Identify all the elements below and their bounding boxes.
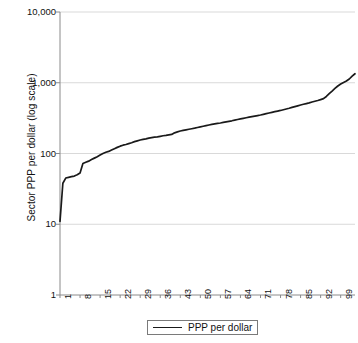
x-axis-tick-label: 29 [144, 289, 153, 299]
x-axis-tick-label: 64 [244, 289, 253, 299]
x-axis-tick-label: 1 [64, 294, 73, 299]
x-axis-tick-label: 57 [224, 289, 233, 299]
x-axis-tick-labels: 1815222936435057647178859299 [0, 0, 358, 343]
x-axis-tick-label: 36 [164, 289, 173, 299]
x-axis-tick-label: 92 [325, 289, 334, 299]
x-axis-tick-label: 43 [184, 289, 193, 299]
x-axis-tick-label: 22 [124, 289, 133, 299]
legend-label-ppp-per-dollar: PPP per dollar [188, 322, 252, 333]
x-axis-tick-label: 50 [204, 289, 213, 299]
legend-line-swatch-icon [153, 327, 182, 328]
x-axis-tick-label: 8 [84, 294, 93, 299]
x-axis-tick-label: 78 [285, 289, 294, 299]
x-axis-tick-label: 15 [104, 289, 113, 299]
x-axis-tick-label: 71 [264, 289, 273, 299]
chart-container: Sector PPP per dollar (log scale) 110100… [0, 0, 358, 343]
chart-legend: PPP per dollar [147, 320, 258, 335]
x-axis-tick-label: 99 [345, 289, 354, 299]
x-axis-tick-label: 85 [305, 289, 314, 299]
